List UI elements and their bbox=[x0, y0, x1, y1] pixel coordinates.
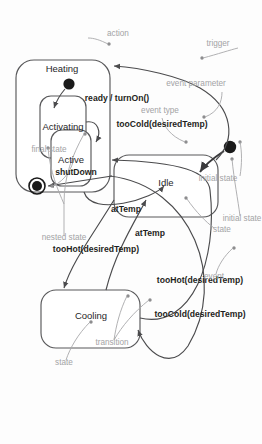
edge-label-at-temp-lower: atTemp bbox=[135, 228, 165, 238]
annotation-event: event bbox=[204, 272, 225, 281]
diagram-canvas: Idle Cooling Heating Activating Active s… bbox=[0, 0, 262, 444]
edge-label-at-temp-upper: atTemp bbox=[111, 204, 141, 214]
annotation-trigger: trigger bbox=[206, 39, 229, 48]
leader-trigger bbox=[203, 48, 238, 58]
diagram-rotated-layer: Idle Cooling Heating Activating Active s… bbox=[0, 0, 262, 444]
state-label-active: Active bbox=[58, 154, 84, 165]
leader-event-parameter bbox=[205, 92, 222, 117]
edge-label-too-hot-right: tooHot(desiredTemp) bbox=[157, 275, 243, 285]
state-label-cooling: Cooling bbox=[75, 310, 107, 321]
state-label-heating: Heating bbox=[46, 63, 79, 74]
leader-event bbox=[216, 248, 233, 274]
leader-action bbox=[88, 38, 108, 44]
annotation-state-cooling: state bbox=[55, 358, 73, 367]
annotation-initial-state-bottom: initial state bbox=[223, 214, 262, 223]
annotation-initial-state-top: initial state bbox=[199, 174, 238, 183]
leader-initial-state-bottom bbox=[232, 159, 240, 216]
state-machine-svg: Idle Cooling Heating Activating Active s… bbox=[0, 0, 262, 444]
nested-initial-state-node[interactable] bbox=[63, 78, 74, 89]
annotation-transition: transition bbox=[95, 338, 129, 347]
annotation-final-state: final state bbox=[31, 145, 66, 154]
leader-initial-state-top bbox=[240, 142, 242, 176]
edge-label-ready-turn-on: ready / turnOn() bbox=[85, 93, 150, 103]
annotation-event-type: event type bbox=[141, 106, 179, 115]
annotation-nested-state: nested state bbox=[42, 233, 87, 242]
annotation-state-left: state bbox=[213, 225, 231, 234]
annotation-action: action bbox=[107, 29, 129, 38]
edge-label-too-cold-right: tooCold(desiredTemp) bbox=[154, 309, 245, 319]
annotation-event-parameter: event parameter bbox=[166, 79, 226, 88]
state-label-activating: Activating bbox=[42, 121, 83, 132]
edge-label-too-cold-top: tooCold(desiredTemp) bbox=[116, 119, 207, 129]
edge-label-shut-down: shutDown bbox=[55, 167, 97, 177]
state-label-idle: Idle bbox=[158, 177, 173, 188]
edge-label-too-hot-bottom: tooHot(desiredTemp) bbox=[53, 244, 139, 254]
